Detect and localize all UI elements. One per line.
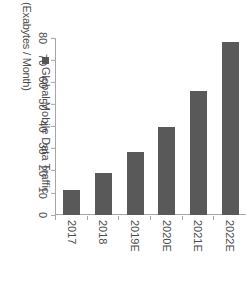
category-tick-mark [182,216,183,220]
value-tick: 60 [37,76,55,88]
bar-2022E [222,42,239,215]
value-tick-label: 10 [37,187,49,199]
tick-mark [51,104,55,105]
tick-mark [51,148,55,149]
tick-mark [51,60,55,61]
value-axis-line [55,38,56,216]
category-label-2021E: 2021E [193,220,205,252]
tick-mark [51,82,55,83]
value-tick-label: 60 [37,76,49,88]
tick-mark [51,38,55,39]
bar-2018 [95,173,112,215]
category-label-2017: 2017 [66,220,78,244]
value-tick: 10 [37,187,55,199]
rotated-chart-wrapper: (Exabytes / Month) Global Mobile Data Tr… [0,0,251,291]
bar-row [127,38,144,215]
bar-row [63,38,80,215]
bar-2019E [127,152,144,215]
value-tick-label: 40 [37,120,49,132]
bar-2021E [190,91,207,215]
tick-mark [51,170,55,171]
category-label-2018: 2018 [98,220,110,244]
bar-row [95,38,112,215]
category-label-2020E: 2020E [161,220,173,252]
category-label-2019E: 2019E [129,220,141,252]
plot-area [56,38,246,215]
category-tick-mark [150,216,151,220]
value-tick-label: 20 [37,165,49,177]
bar-2017 [63,190,80,215]
category-tick-mark [118,216,119,220]
category-axis-labels: 201720182019E2020E2021E2022E [56,216,246,290]
tick-mark [51,192,55,193]
value-tick-label: 70 [37,54,49,66]
value-tick: 40 [37,120,55,132]
category-label-2022E: 2022E [224,220,236,252]
tick-mark [51,126,55,127]
bar-row [222,38,239,215]
value-tick-label: 0 [37,212,49,218]
value-tick: 20 [37,165,55,177]
value-tick: 30 [37,143,55,155]
value-tick-label: 50 [37,98,49,110]
value-tick-label: 30 [37,143,49,155]
bar-row [190,38,207,215]
zero-baseline [56,214,246,215]
category-tick-mark [55,216,56,220]
category-tick-mark [213,216,214,220]
value-tick-label: 80 [37,32,49,44]
bar-2020E [158,127,175,216]
value-tick: 70 [37,54,55,66]
value-tick: 0 [37,212,55,218]
bar-row [158,38,175,215]
bar-chart: (Exabytes / Month) Global Mobile Data Tr… [0,0,251,291]
value-tick: 80 [37,32,55,44]
value-tick: 50 [37,98,55,110]
value-axis-ticks: 80706050403020100 [31,38,55,216]
category-tick-mark [87,216,88,220]
